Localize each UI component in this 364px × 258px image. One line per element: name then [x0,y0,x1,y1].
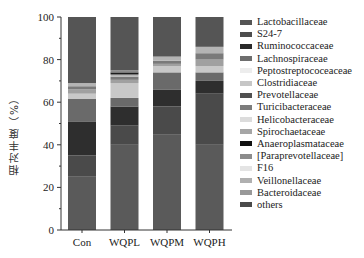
bar-segment [68,99,96,121]
bar-segment [196,17,224,47]
legend-swatch-icon [240,154,252,159]
bar-wqpl [111,17,139,230]
bar-segment [196,81,224,94]
bar-segment [68,94,96,99]
legend-item: Peptostreptococeaceae [240,65,364,77]
legend-label: Veillonellaceae [257,175,321,187]
legend-item: F16 [240,162,364,174]
bar-wqph [196,17,224,230]
legend-label: F16 [257,162,273,174]
bar-segment [153,56,181,57]
legend-swatch-icon [240,20,252,25]
bar-segment [68,89,96,93]
bars-group [68,17,224,230]
bar-segment [153,66,181,72]
legend-swatch-icon [240,56,252,61]
bar-segment [196,60,224,66]
legend-swatch-icon [240,68,252,73]
legend-item: Clostridiaceae [240,77,364,89]
legend-item: Ruminococcaceae [240,40,364,52]
legend-item: Helicobacteraceae [240,114,364,126]
legend-swatch-icon [240,81,252,86]
legend-label: Peptostreptococeaceae [257,65,352,77]
bar-segment [153,72,181,89]
bar-con [68,17,96,230]
bar-segment [111,98,139,107]
legend-swatch-icon [240,117,252,122]
legend-item: Turicibacteraceae [240,101,364,113]
bar-segment [153,89,181,106]
legend-label: Lactobacillaceae [257,16,328,28]
legend-label: Bacteroidaceae [257,187,321,199]
bar-segment [111,72,139,74]
legend-label: Prevotellaceae [257,89,318,101]
legend-swatch-icon [240,129,252,134]
x-tick-label: Con [73,236,92,248]
bar-segment [111,106,139,125]
legend-item: Prevotellaceae [240,89,364,101]
legend-label: S24-7 [257,28,282,40]
legend-item: Lachnospiraceae [240,53,364,65]
bar-segment [196,145,224,230]
bar-segment [153,17,181,56]
bar-segment [68,17,96,83]
legend-swatch-icon [240,93,252,98]
legend-label: Spirochaetaceae [257,126,325,138]
y-tick-label: 80 [43,54,55,66]
y-tick-label: 0 [49,224,55,236]
legend-swatch-icon [240,32,252,37]
bar-segment [68,177,96,230]
bar-segment [111,83,139,98]
bar-segment [111,77,139,80]
legend-swatch-icon [240,202,252,207]
bar-segment [111,145,139,230]
legend-label: Turicibacteraceae [257,101,331,113]
bar-segment [111,70,139,72]
y-tick-label: 40 [43,139,55,151]
bar-segment [68,121,96,155]
legend-swatch-icon [240,141,252,146]
y-tick-label: 60 [43,96,55,108]
legend-item: Spirochaetaceae [240,126,364,138]
bar-segment [196,94,224,145]
legend-item: [Paraprevotellaceae] [240,150,364,162]
bar-segment [196,53,224,59]
legend-swatch-icon [240,178,252,183]
bar-segment [196,72,224,81]
legend-label: Anaeroplasmataceae [257,138,344,150]
bar-segment [111,75,139,77]
x-tick-label: WQPH [193,236,225,248]
y-axis-label: 相对丰度（%） [6,92,20,175]
legend-label: Lachnospiraceae [257,53,328,65]
bar-segment [153,64,181,66]
legend-item: S24-7 [240,28,364,40]
legend-swatch-icon [240,105,252,110]
bar-segment [111,17,139,70]
bar-segment [68,155,96,176]
y-tick-label: 100 [38,11,55,23]
legend-item: Veillonellaceae [240,174,364,186]
bar-segment [153,57,181,60]
bar-segment [196,66,224,72]
bar-segment [68,83,96,86]
bar-segment [153,106,181,134]
bar-segment [196,47,224,53]
legend-swatch-icon [240,166,252,171]
bar-segment [68,86,96,89]
legend-label: [Paraprevotellaceae] [257,150,343,162]
bar-segment [153,134,181,230]
legend-item: Anaeroplasmataceae [240,138,364,150]
bar-segment [111,80,139,83]
legend-label: Clostridiaceae [257,77,317,89]
legend-item: Lactobacillaceae [240,16,364,28]
legend-item: Bacteroidaceae [240,187,364,199]
y-tick-label: 20 [43,181,55,193]
x-tick-label: WQPL [109,236,140,248]
bar-segment [111,126,139,145]
legend-label: Ruminococcaceae [257,40,333,52]
legend-label: Helicobacteraceae [257,114,334,126]
bar-wqpm [153,17,181,230]
legend-item: others [240,199,364,211]
x-tick-label: WQPM [150,236,184,248]
legend-label: others [257,199,283,211]
